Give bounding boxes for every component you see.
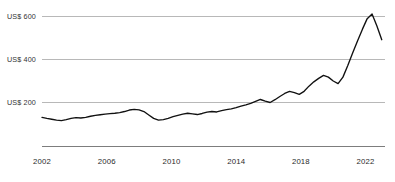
y-tick-label: US$ 400 [7,55,36,64]
gridlines-group [42,17,385,103]
y-tick-label: US$ 600 [7,12,36,21]
line-chart: US$ 200US$ 400US$ 600 200220062010201420… [0,0,395,182]
y-tick-label: US$ 200 [7,98,36,107]
data-series-line [42,14,382,121]
x-tick-label: 2022 [357,157,375,166]
x-tick-labels-group: 200220062010201420182022 [33,157,375,166]
x-tick-label: 2010 [162,157,180,166]
chart-canvas: US$ 200US$ 400US$ 600 200220062010201420… [0,0,395,182]
x-tick-label: 2014 [227,157,245,166]
x-tick-label: 2018 [292,157,310,166]
y-tick-labels-group: US$ 200US$ 400US$ 600 [7,12,36,107]
x-tick-label: 2006 [98,157,116,166]
x-tick-label: 2002 [33,157,51,166]
